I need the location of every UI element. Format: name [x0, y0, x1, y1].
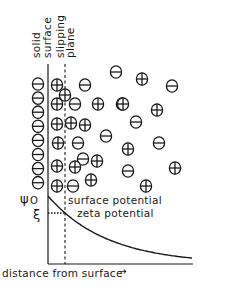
positive-ion — [51, 118, 62, 130]
positive-ion — [140, 180, 151, 192]
surface-negative-ion — [32, 92, 43, 104]
surface-potential-label: surface potential — [68, 194, 162, 206]
solid-surface-label: solid surface — [30, 17, 53, 58]
ions-layer — [32, 66, 180, 192]
slipping-plane-label: slipping plane — [54, 15, 76, 58]
positive-ion — [65, 117, 76, 129]
surface-negative-ion — [32, 78, 43, 90]
solid-surface-label-line2: surface — [41, 17, 53, 58]
negative-ion — [130, 116, 141, 128]
psi0-label: ψ O — [20, 191, 38, 206]
positive-ion — [117, 98, 128, 110]
positive-ion — [91, 155, 102, 167]
psi0-subscript: O — [30, 195, 38, 206]
positive-ion — [169, 162, 180, 174]
negative-ion — [166, 80, 177, 92]
x-axis-label: distance from surface — [2, 267, 123, 279]
negative-ion — [79, 79, 90, 91]
surface-negative-ion — [32, 120, 43, 132]
positive-ion — [122, 143, 133, 155]
positive-ion — [69, 161, 80, 173]
positive-ion — [52, 137, 63, 149]
negative-ion — [153, 137, 164, 149]
negative-ion — [72, 137, 83, 149]
negative-ion — [67, 180, 78, 192]
negative-ion — [100, 130, 111, 142]
surface-negative-ion — [32, 134, 43, 146]
surface-negative-ion — [32, 162, 43, 174]
negative-ion — [69, 98, 80, 110]
positive-ion — [136, 73, 147, 85]
surface-negative-ion — [32, 106, 43, 118]
positive-ion — [51, 79, 62, 91]
positive-ion — [151, 104, 162, 116]
surface-negative-ion — [32, 148, 43, 160]
double-layer-diagram: solid surface slipping plane ψ O ξ surfa… — [0, 0, 252, 291]
positive-ion — [51, 160, 62, 172]
diagram-canvas: solid surface slipping plane ψ O ξ surfa… — [0, 0, 252, 291]
zeta-symbol: ξ — [33, 207, 40, 222]
surface-negative-ion — [32, 177, 43, 189]
slipping-plane-label-line2: plane — [64, 27, 76, 58]
zeta-potential-label: zeta potential — [77, 207, 154, 219]
positive-ion — [51, 180, 62, 192]
negative-ion — [122, 165, 133, 177]
negative-ion — [110, 66, 121, 78]
x-axis-arrow-icon: → — [118, 265, 127, 277]
psi0-symbol: ψ — [20, 191, 29, 206]
positive-ion — [51, 98, 62, 110]
positive-ion — [79, 119, 90, 131]
positive-ion — [85, 174, 96, 186]
positive-ion — [92, 98, 103, 110]
